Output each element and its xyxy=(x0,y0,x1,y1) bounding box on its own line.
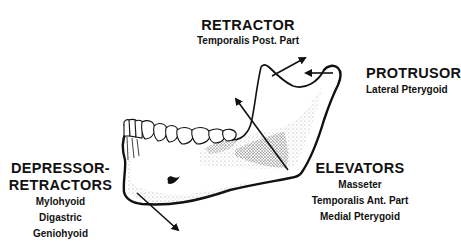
retractor-arrow xyxy=(272,58,305,76)
muscle-geniohyoid: Geniohyoid xyxy=(8,226,113,242)
muscle-temporalis-post: Temporalis Post. Part xyxy=(196,34,300,48)
elevators-title: ELEVATORS xyxy=(300,160,420,177)
muscle-digastric: Digastric xyxy=(8,210,113,226)
depressor-title-line2: RETRACTORS xyxy=(8,177,113,194)
muscle-lateral-pterygoid: Lateral Pterygoid xyxy=(366,82,461,97)
bone-shading xyxy=(127,88,322,203)
protrusor-label: PROTRUSOR Lateral Pterygoid xyxy=(368,65,461,97)
protrusor-title: PROTRUSOR xyxy=(366,65,461,82)
retractor-label: RETRACTOR Temporalis Post. Part xyxy=(196,17,300,48)
muscle-masseter: Masseter xyxy=(300,177,420,193)
mental-foramen xyxy=(167,176,180,184)
depressor-retractors-label: DEPRESSOR- RETRACTORS Mylohyoid Digastri… xyxy=(8,160,113,242)
muscle-medial-pterygoid: Medial Pterygoid xyxy=(300,209,420,225)
elevators-label: ELEVATORS Masseter Temporalis Ant. Part … xyxy=(300,160,420,225)
depressor-title-line1: DEPRESSOR- xyxy=(8,160,113,177)
muscle-temporalis-ant: Temporalis Ant. Part xyxy=(300,193,420,209)
retractor-title: RETRACTOR xyxy=(196,17,300,34)
muscle-mylohyoid: Mylohyoid xyxy=(8,194,113,210)
